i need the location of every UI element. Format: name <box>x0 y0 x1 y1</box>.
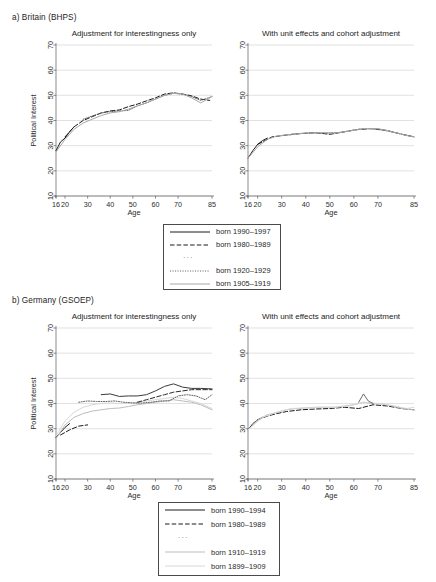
legend-line-sample <box>169 279 211 289</box>
svg-text:30: 30 <box>84 200 92 209</box>
svg-text:20: 20 <box>61 200 69 209</box>
svg-text:30: 30 <box>238 142 247 150</box>
legend-item: born 1980–1989 <box>164 238 280 251</box>
legend-ellipsis: ··· <box>164 534 188 541</box>
svg-text:70: 70 <box>174 200 182 209</box>
legend-line-sample <box>164 519 206 529</box>
figure-page: a) Britain (BHPS) Adjustment for interes… <box>0 0 436 582</box>
svg-text:85: 85 <box>410 200 418 209</box>
svg-text:With unit effects and cohort a: With unit effects and cohort adjustment <box>262 29 401 38</box>
legend-item: born 1910–1919 <box>159 545 279 559</box>
svg-text:30: 30 <box>278 483 286 492</box>
svg-text:60: 60 <box>151 483 159 492</box>
svg-text:60: 60 <box>238 66 247 74</box>
svg-text:60: 60 <box>238 349 247 357</box>
legend-line-sample <box>164 505 206 515</box>
svg-text:40: 40 <box>302 483 310 492</box>
legend-label: born 1905–1919 <box>211 279 271 288</box>
svg-text:Age: Age <box>127 491 140 500</box>
section-header-britain: a) Britain (BHPS) <box>12 13 77 22</box>
svg-text:70: 70 <box>238 324 247 332</box>
legend-item: born 1905–1919 <box>164 277 280 290</box>
svg-text:30: 30 <box>46 142 55 150</box>
svg-text:40: 40 <box>46 400 55 408</box>
svg-text:85: 85 <box>410 483 418 492</box>
series-line <box>79 395 212 403</box>
svg-text:30: 30 <box>46 425 55 433</box>
svg-text:20: 20 <box>46 167 55 175</box>
panel-block-britain: Adjustment for interestingness only10203… <box>0 22 436 222</box>
svg-text:70: 70 <box>174 483 182 492</box>
svg-text:40: 40 <box>106 483 114 492</box>
svg-text:Adjustment for interestingness: Adjustment for interestingness only <box>72 29 197 38</box>
svg-text:16: 16 <box>244 200 252 209</box>
series-line <box>56 400 212 439</box>
svg-text:20: 20 <box>254 200 262 209</box>
svg-text:70: 70 <box>238 41 247 49</box>
svg-text:50: 50 <box>238 91 247 99</box>
svg-text:With unit effects and cohort a: With unit effects and cohort adjustment <box>262 312 401 321</box>
svg-text:Age: Age <box>324 491 337 500</box>
svg-text:16: 16 <box>244 483 252 492</box>
legend-label: born 1980–1989 <box>211 240 271 249</box>
svg-text:40: 40 <box>238 400 247 408</box>
legend-item: ··· <box>159 531 279 545</box>
legend-label: born 1910–1919 <box>206 548 266 557</box>
svg-text:40: 40 <box>106 200 114 209</box>
svg-text:60: 60 <box>151 200 159 209</box>
svg-text:20: 20 <box>61 483 69 492</box>
svg-text:Political Interest: Political Interest <box>29 94 38 146</box>
legend-line-sample <box>169 266 211 276</box>
svg-text:Adjustment for interestingness: Adjustment for interestingness only <box>72 312 197 321</box>
svg-text:30: 30 <box>278 200 286 209</box>
svg-text:30: 30 <box>84 483 92 492</box>
section-header-germany: b) Germany (GSOEP) <box>12 296 94 305</box>
svg-text:Age: Age <box>324 208 337 217</box>
legend-germany: born 1990–1994born 1980–1989···born 1910… <box>158 502 280 576</box>
series-line <box>248 129 414 159</box>
svg-text:70: 70 <box>46 324 55 332</box>
legend-label: born 1980–1989 <box>206 520 266 529</box>
legend-line-sample <box>164 547 206 557</box>
svg-text:40: 40 <box>46 117 55 125</box>
svg-text:85: 85 <box>208 483 216 492</box>
svg-text:20: 20 <box>238 450 247 458</box>
legend-item: born 1980–1989 <box>159 517 279 531</box>
chart-svg-germany: Adjustment for interestingness only10203… <box>0 305 436 505</box>
svg-text:70: 70 <box>46 41 55 49</box>
legend-label: born 1990–1994 <box>206 506 266 515</box>
legend-item: born 1920–1929 <box>164 264 280 277</box>
svg-text:60: 60 <box>350 483 358 492</box>
svg-text:60: 60 <box>350 200 358 209</box>
svg-text:20: 20 <box>238 167 247 175</box>
legend-ellipsis: ··· <box>169 254 193 261</box>
legend-britain: born 1990–1997born 1980–1989···born 1920… <box>163 224 281 290</box>
legend-label: born 1899–1909 <box>206 562 266 571</box>
legend-label: born 1920–1929 <box>211 266 271 275</box>
svg-text:50: 50 <box>46 374 55 382</box>
legend-item: born 1990–1997 <box>164 225 280 238</box>
svg-text:30: 30 <box>238 425 247 433</box>
series-line <box>101 384 212 397</box>
legend-item: born 1990–1994 <box>159 503 279 517</box>
svg-text:40: 40 <box>302 200 310 209</box>
svg-text:20: 20 <box>254 483 262 492</box>
svg-text:Political Interest: Political Interest <box>29 377 38 429</box>
legend-line-sample <box>169 240 211 250</box>
svg-text:85: 85 <box>208 200 216 209</box>
svg-text:Age: Age <box>127 208 140 217</box>
svg-text:50: 50 <box>46 91 55 99</box>
svg-text:70: 70 <box>374 200 382 209</box>
svg-text:16: 16 <box>52 483 60 492</box>
svg-text:70: 70 <box>374 483 382 492</box>
chart-svg-britain: Adjustment for interestingness only10203… <box>0 22 436 222</box>
legend-line-sample <box>164 561 206 571</box>
panel-block-germany: Adjustment for interestingness only10203… <box>0 305 436 505</box>
svg-text:20: 20 <box>46 450 55 458</box>
legend-item: ··· <box>164 251 280 264</box>
legend-label: born 1990–1997 <box>211 227 271 236</box>
svg-text:60: 60 <box>46 349 55 357</box>
legend-line-sample <box>169 227 211 237</box>
legend-item: born 1899–1909 <box>159 559 279 573</box>
svg-text:16: 16 <box>52 200 60 209</box>
